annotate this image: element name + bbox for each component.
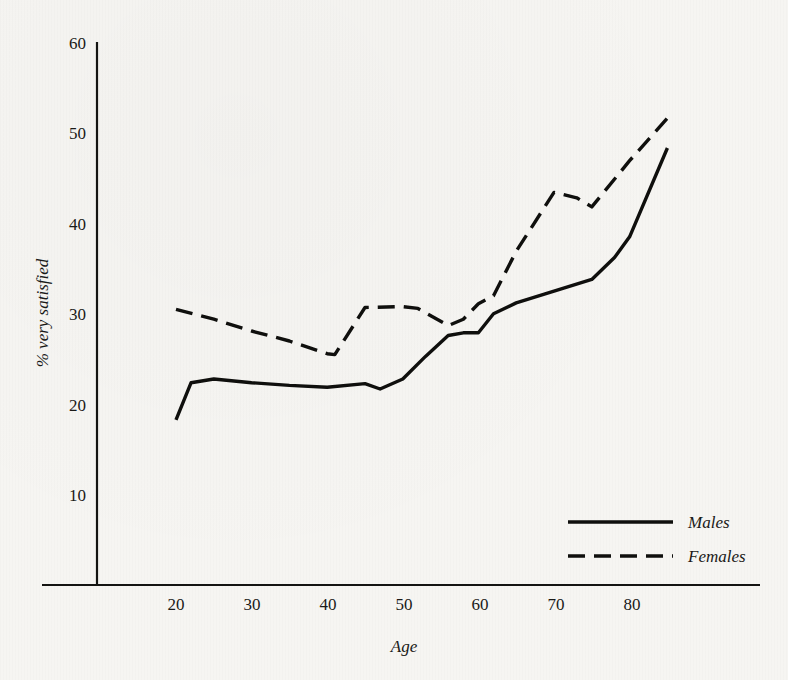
x-tick-label: 20 — [168, 595, 185, 614]
y-axis-title: % very satisfied — [33, 258, 52, 367]
x-tick-label: 60 — [472, 595, 489, 614]
x-tick-labels: 20 30 40 50 60 70 80 — [168, 595, 641, 614]
legend-label-females: Females — [687, 547, 746, 566]
series-line-males — [176, 148, 667, 420]
y-tick-label: 30 — [69, 305, 86, 324]
legend-label-males: Males — [687, 513, 730, 532]
y-tick-labels: 60 50 40 30 20 10 — [69, 34, 86, 505]
axes-group — [42, 42, 760, 585]
y-tick-label: 20 — [69, 396, 86, 415]
chart-page: 60 50 40 30 20 10 20 30 40 50 60 70 80 %… — [0, 0, 788, 680]
x-tick-label: 80 — [624, 595, 641, 614]
y-tick-label: 50 — [69, 124, 86, 143]
x-tick-label: 30 — [244, 595, 261, 614]
series-group — [176, 118, 667, 420]
x-axis-title: Age — [390, 637, 418, 656]
y-tick-label: 60 — [69, 34, 86, 53]
series-line-females — [176, 118, 667, 355]
y-tick-label: 40 — [69, 215, 86, 234]
x-tick-label: 50 — [396, 595, 413, 614]
y-tick-label: 10 — [69, 486, 86, 505]
x-tick-label: 40 — [320, 595, 337, 614]
x-tick-label: 70 — [548, 595, 565, 614]
line-chart: 60 50 40 30 20 10 20 30 40 50 60 70 80 %… — [0, 0, 788, 680]
chart-legend: Males Females — [568, 513, 746, 566]
